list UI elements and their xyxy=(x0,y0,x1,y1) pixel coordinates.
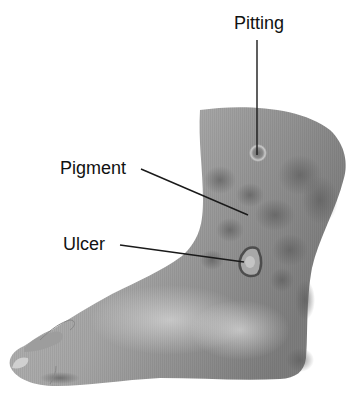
foot-illustration xyxy=(0,0,350,401)
pitting-spot xyxy=(249,144,267,162)
pitting-label: Pitting xyxy=(234,14,284,32)
foot-diagram: Pitting Pigment Ulcer xyxy=(0,0,350,401)
ulcer-label: Ulcer xyxy=(63,235,105,253)
pigment-label: Pigment xyxy=(60,159,126,177)
